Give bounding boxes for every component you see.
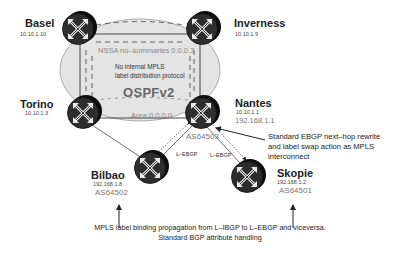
link-label-nantes-skopie: L–EBGP xyxy=(210,153,231,159)
router-inverness-name: Inverness xyxy=(234,18,285,29)
annotation-bottom-line2: Standard BGP attribute handling xyxy=(40,233,380,243)
router-nantes-ip: 10.10.1.1 xyxy=(236,110,259,116)
igp-note-line1: No internal MPLS xyxy=(115,64,164,70)
backbone-area-label: Area 0.0.0.0 xyxy=(131,112,172,120)
router-bilbao-icon[interactable] xyxy=(135,150,170,184)
network-diagram-canvas xyxy=(0,0,399,253)
router-nantes-ip2: 192.168.1.1 xyxy=(235,117,275,125)
annotation-nantes-line1: Standard EBGP next–hop rewrite xyxy=(268,132,380,142)
annotation-nantes-line2: and label swap action as MPLS xyxy=(268,142,380,152)
annotation-nantes-line3: interconnect xyxy=(268,152,380,162)
router-torino-name: Torino xyxy=(20,99,53,110)
router-skopie-ip: 192.168.1.2 xyxy=(277,180,306,186)
router-torino-icon[interactable] xyxy=(68,95,103,129)
nssa-area-label: NSSA no–summaries 0.0.0.3 xyxy=(98,47,194,55)
router-nantes-as: AS64503 xyxy=(186,133,219,141)
igp-protocol-label: OSPFv2 xyxy=(123,86,175,99)
router-nantes-name: Nantes xyxy=(235,98,272,109)
router-skopie-icon[interactable] xyxy=(232,159,267,193)
link-torino-bilbao xyxy=(92,125,145,160)
router-inverness-icon[interactable] xyxy=(187,11,222,45)
annotation-bottom: MPLS label binding propagation from L–IB… xyxy=(40,223,380,243)
router-skopie-as: AS64501 xyxy=(279,187,312,195)
annotation-bottom-line1: MPLS label binding propagation from L–IB… xyxy=(40,223,380,233)
router-inverness-ip: 10.10.1.9 xyxy=(235,32,258,38)
router-bilbao-as: AS64502 xyxy=(95,189,128,197)
router-basel-ip: 10.10.1.10 xyxy=(20,32,46,38)
link-label-nantes-bilbao: L–EBGP xyxy=(176,152,197,158)
router-bilbao-ip: 192.168.1.8 xyxy=(93,182,122,188)
annotation-nantes: Standard EBGP next–hop rewrite and label… xyxy=(268,132,380,162)
router-skopie-name: Skopie xyxy=(277,168,313,179)
annotation-arrow-nantes xyxy=(216,128,265,140)
igp-note-line2: label distribution protocol xyxy=(115,73,185,79)
router-torino-ip: 10.10.1.3 xyxy=(25,111,48,117)
router-bilbao-name: Bilbao xyxy=(91,170,125,181)
router-basel-name: Basel xyxy=(25,18,54,29)
